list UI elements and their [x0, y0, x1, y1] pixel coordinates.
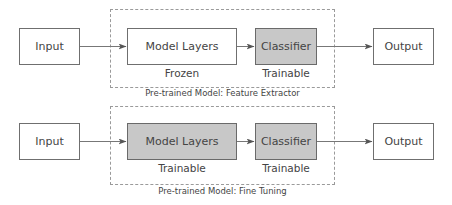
model-layers-node-row2: Model Layers [127, 123, 237, 160]
input-node-row2: Input [19, 123, 80, 160]
output-label: Output [384, 40, 422, 53]
model-layers-label: Model Layers [146, 40, 219, 53]
classifier-label: Classifier [261, 40, 311, 53]
container-caption-fine-tuning: Pre-trained Model: Fine Tuning [110, 186, 335, 196]
model-layers-status-frozen: Frozen [127, 67, 237, 79]
output-label: Output [384, 135, 422, 148]
output-node-row2: Output [373, 123, 434, 160]
classifier-node-row1: Classifier [255, 28, 317, 65]
container-caption-feature-extractor: Pre-trained Model: Feature Extractor [110, 88, 335, 98]
classifier-node-row2: Classifier [255, 123, 317, 160]
input-label: Input [35, 135, 63, 148]
classifier-label: Classifier [261, 135, 311, 148]
input-label: Input [35, 40, 63, 53]
input-node-row1: Input [19, 28, 80, 65]
output-node-row1: Output [373, 28, 434, 65]
classifier-status-trainable: Trainable [250, 162, 322, 174]
classifier-status-trainable: Trainable [250, 67, 322, 79]
model-layers-status-trainable: Trainable [127, 162, 237, 174]
model-layers-node-row1: Model Layers [127, 28, 237, 65]
transfer-learning-diagram: Input Model Layers Frozen Classifier Tra… [0, 0, 452, 205]
model-layers-label: Model Layers [146, 135, 219, 148]
